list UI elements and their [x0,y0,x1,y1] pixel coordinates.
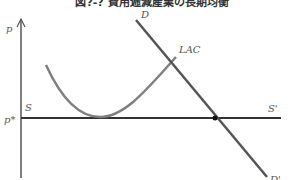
supply-end-label: S' [268,103,278,114]
lac-curve [46,57,176,117]
diagram-canvas: p p* S S' D D' LAC [0,0,304,180]
demand-start-label: D [140,9,149,20]
price-level-label: p* [4,114,15,125]
demand-end-label: D' [269,174,281,180]
demand-line [136,20,267,177]
supply-start-label: S [25,102,32,113]
equilibrium-point [213,116,218,121]
lac-label: LAC [178,44,201,55]
y-axis-label: p [6,23,13,34]
